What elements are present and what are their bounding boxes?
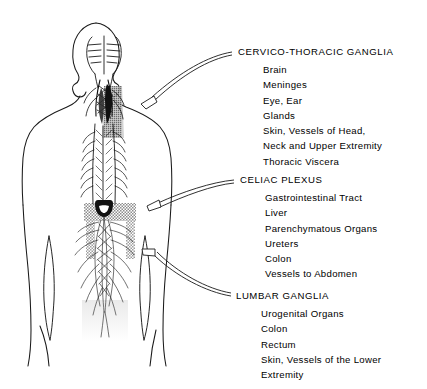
list-item: Ureters [265, 236, 377, 251]
list-item: Brain [263, 62, 393, 77]
list-cervico-thoracic: Brain Meninges Eye, Ear Glands Skin, Ves… [263, 62, 393, 169]
label-block-celiac-plexus: CELIAC PLEXUS Gastrointestinal Tract Liv… [240, 175, 377, 282]
list-item: Rectum [261, 337, 381, 352]
list-item: Gastrointestinal Tract [265, 190, 377, 205]
leader-arrow-lumbar [142, 249, 231, 296]
list-item: Liver [265, 205, 377, 220]
list-item: Eye, Ear [263, 93, 393, 108]
diagram-page: CERVICO-THORACIC GANGLIA Brain Meninges … [0, 0, 427, 389]
list-item: Glands [263, 108, 393, 123]
label-block-cervico-thoracic: CERVICO-THORACIC GANGLIA Brain Meninges … [238, 47, 393, 169]
cauda-equina-fade [82, 300, 128, 342]
list-item: Colon [265, 251, 377, 266]
heading-celiac-plexus: CELIAC PLEXUS [240, 175, 377, 185]
leader-arrow-cervico [141, 52, 232, 109]
heading-lumbar-ganglia: LUMBAR GANGLIA [236, 291, 381, 301]
list-item: Vessels to Abdomen [265, 266, 377, 281]
list-item: Skin, Vessels of the Lower [261, 352, 381, 367]
list-celiac-plexus: Gastrointestinal Tract Liver Parenchymat… [265, 190, 377, 282]
list-item: Parenchymatous Organs [265, 221, 377, 236]
list-item: Skin, Vessels of Head, [263, 123, 393, 138]
list-item: Neck and Upper Extremity [263, 138, 393, 153]
list-item: Meninges [263, 77, 393, 92]
list-lumbar-ganglia: Urogenital Organs Colon Rectum Skin, Ves… [261, 306, 381, 382]
list-item: Colon [261, 321, 381, 336]
leader-arrow-celiac [147, 180, 234, 211]
label-block-lumbar-ganglia: LUMBAR GANGLIA Urogenital Organs Colon R… [236, 291, 381, 382]
list-item: Extremity [261, 367, 381, 382]
list-item: Urogenital Organs [261, 306, 381, 321]
brainstem [87, 36, 122, 88]
left-arm-outline [44, 236, 55, 340]
heading-cervico-thoracic: CERVICO-THORACIC GANGLIA [238, 47, 393, 57]
list-item: Thoracic Viscera [263, 154, 393, 169]
